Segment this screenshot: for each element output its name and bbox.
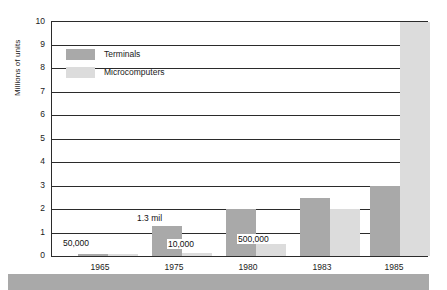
x-tick-1965: 1965	[70, 262, 130, 272]
bar-microcomputers-1980[interactable]	[256, 244, 286, 256]
x-tick-1980: 1980	[218, 262, 278, 272]
bar-microcomputers-1965[interactable]	[108, 254, 138, 256]
y-tick-10: 10	[21, 17, 45, 26]
value-label-1965-terminals: 50,000	[62, 238, 90, 248]
bar-group-1983	[292, 22, 356, 256]
bar-terminals-1980[interactable]	[226, 209, 256, 256]
y-tick-8: 8	[21, 63, 45, 72]
y-tick-6: 6	[21, 110, 45, 119]
y-tick-7: 7	[21, 87, 45, 96]
legend-item-terminals[interactable]: Terminals	[66, 45, 164, 63]
bar-microcomputers-1975[interactable]	[182, 253, 212, 256]
y-tick-4: 4	[21, 157, 45, 166]
y-tick-1: 1	[21, 228, 45, 237]
legend-item-microcomputers[interactable]: Microcomputers	[66, 63, 164, 81]
bottom-decorative-band	[8, 274, 429, 290]
value-label-1975-microcomputers: 10,000	[167, 239, 195, 249]
chart-legend: Terminals Microcomputers	[66, 45, 164, 81]
legend-swatch-microcomputers-icon	[66, 67, 95, 78]
y-tick-3: 3	[21, 181, 45, 190]
y-tick-2: 2	[21, 204, 45, 213]
y-tick-0: 0	[21, 251, 45, 260]
value-label-1975-terminals: 1.3 mil	[136, 213, 163, 223]
bar-terminals-1985[interactable]	[370, 186, 400, 256]
x-tick-1985: 1985	[364, 262, 424, 272]
legend-label-terminals: Terminals	[104, 49, 140, 59]
value-label-1980-microcomputers: 500,000	[237, 234, 270, 244]
legend-label-microcomputers: Microcomputers	[104, 67, 164, 77]
bar-terminals-1965[interactable]	[78, 254, 108, 256]
bar-microcomputers-1983[interactable]	[330, 209, 360, 256]
y-tick-5: 5	[21, 134, 45, 143]
x-tick-1983: 1983	[292, 262, 352, 272]
legend-swatch-terminals-icon	[66, 49, 95, 60]
bar-chart: Millions of units 10 9 8 7 6 5 4 3 2 1 0	[0, 0, 447, 290]
bar-group-1980	[218, 22, 282, 256]
x-tick-1975: 1975	[144, 262, 204, 272]
bar-terminals-1983[interactable]	[300, 198, 330, 256]
bar-microcomputers-1985[interactable]	[400, 22, 430, 256]
bar-group-1985	[366, 22, 430, 256]
y-tick-9: 9	[21, 40, 45, 49]
